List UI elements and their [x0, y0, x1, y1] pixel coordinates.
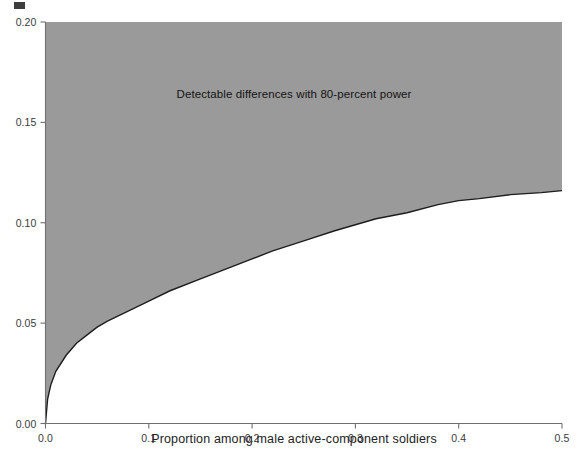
- y-axis-tick-label: 0.00: [0, 418, 37, 430]
- y-axis-tick-label: 0.10: [0, 217, 37, 229]
- plot-area: [0, 0, 588, 452]
- chart-figure: 0.000.050.100.150.20 0.00.10.20.30.40.5 …: [0, 0, 588, 452]
- x-axis-title: Proportion among male active-component s…: [0, 432, 588, 446]
- chart-annotation-text: Detectable differences with 80-percent p…: [0, 88, 588, 100]
- shaded-region-detectable-differences: [46, 22, 563, 424]
- x-axis-ticks: [46, 424, 563, 429]
- y-axis-tick-label: 0.05: [0, 317, 37, 329]
- y-axis-ticks: [41, 22, 46, 424]
- y-axis-tick-label: 0.15: [0, 116, 37, 128]
- y-axis-tick-label: 0.20: [0, 16, 37, 28]
